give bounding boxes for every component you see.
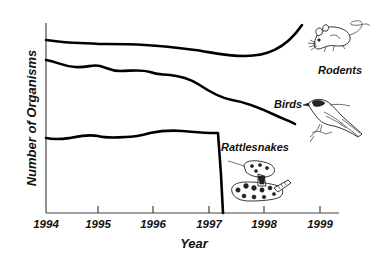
birds-line bbox=[46, 60, 295, 124]
x-axis-title: Year bbox=[180, 236, 209, 251]
population-line-chart: 1994 1995 1996 1997 1998 1999 Year Numbe… bbox=[0, 0, 382, 261]
y-axis-title: Number of Organisms bbox=[24, 50, 39, 187]
x-tick-label: 1999 bbox=[307, 218, 333, 230]
x-tick-label: 1994 bbox=[33, 218, 59, 230]
x-tick-label: 1995 bbox=[85, 218, 111, 230]
axes bbox=[46, 23, 339, 213]
rattlesnake-icon bbox=[228, 161, 291, 201]
x-tick-label: 1997 bbox=[196, 218, 222, 230]
x-tick-label: 1998 bbox=[251, 218, 277, 230]
rattlesnakes-label: Rattlesnakes bbox=[221, 141, 289, 153]
bird-icon bbox=[303, 99, 362, 142]
x-tick-labels: 1994 1995 1996 1997 1998 1999 bbox=[33, 218, 333, 230]
rodents-label: Rodents bbox=[318, 64, 362, 76]
rodents-line bbox=[46, 25, 302, 56]
mouse-icon bbox=[308, 21, 370, 52]
birds-label: Birds bbox=[274, 98, 302, 110]
x-tick-label: 1996 bbox=[140, 218, 166, 230]
rattlesnakes-line bbox=[46, 131, 223, 213]
